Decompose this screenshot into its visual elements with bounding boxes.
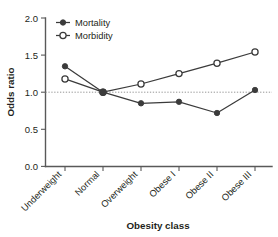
point-morbidity-underweight	[62, 76, 68, 82]
point-morbidity-obese-i	[176, 71, 182, 77]
series-mortality-line	[65, 66, 255, 113]
axes	[41, 18, 272, 171]
x-label-obese-iii: Obese III	[220, 169, 254, 203]
legend-marker-mortality-icon	[60, 20, 65, 25]
point-morbidity-overweight	[138, 81, 144, 87]
chart-figure: 2.0 1.5 1.0 0.5 0.0	[0, 0, 278, 237]
point-mortality-normal	[100, 89, 107, 96]
series-morbidity	[62, 49, 258, 95]
point-mortality-obese-i	[176, 99, 181, 104]
legend-label-morbidity: Morbidity	[75, 31, 113, 41]
y-tick-label-0: 0.0	[25, 161, 38, 172]
y-tick-labels: 2.0 1.5 1.0 0.5 0.0	[25, 13, 38, 172]
legend-entry-morbidity[interactable]: Morbidity	[56, 31, 113, 41]
legend-label-mortality: Mortality	[75, 18, 110, 28]
x-label-normal: Normal	[73, 169, 101, 197]
legend-entry-mortality[interactable]: Mortality	[56, 18, 110, 28]
point-mortality-underweight	[62, 64, 67, 69]
point-mortality-obese-ii	[214, 110, 219, 115]
point-mortality-overweight	[138, 101, 143, 106]
x-label-underweight: Underweight	[19, 169, 63, 213]
x-label-obese-i: Obese I	[147, 169, 177, 199]
point-morbidity-obese-iii	[252, 49, 258, 55]
y-tick-label-2: 1.0	[25, 87, 38, 98]
chart-legend: Mortality Morbidity	[56, 18, 113, 41]
x-axis-title: Obesity class	[126, 220, 190, 231]
x-label-overweight: Overweight	[99, 169, 140, 210]
series-mortality	[62, 64, 257, 116]
y-axis-title: Odds ratio	[5, 67, 16, 116]
line-chart: 2.0 1.5 1.0 0.5 0.0	[0, 0, 278, 237]
y-tick-label-4: 2.0	[25, 13, 38, 24]
point-morbidity-obese-ii	[214, 60, 220, 66]
x-label-obese-ii: Obese II	[183, 169, 215, 201]
x-category-labels: Underweight Normal Overweight Obese I Ob…	[19, 169, 253, 213]
y-tick-label-3: 1.5	[25, 50, 38, 61]
point-mortality-obese-iii	[252, 87, 257, 92]
legend-marker-morbidity-icon	[60, 32, 66, 38]
y-tick-label-1: 0.5	[25, 124, 38, 135]
